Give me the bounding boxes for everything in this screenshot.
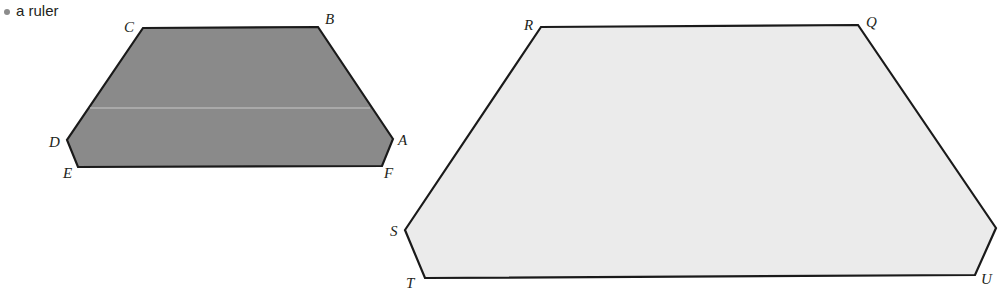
vertex-label-q: Q <box>866 14 877 30</box>
vertex-label-s: S <box>390 223 398 239</box>
vertex-label-r: R <box>523 17 533 33</box>
vertex-label-f: F <box>383 165 394 181</box>
vertex-label-e: E <box>62 165 72 181</box>
large-hexagon <box>405 25 996 278</box>
vertex-label-u: U <box>981 271 993 287</box>
vertex-label-b: B <box>325 11 334 27</box>
vertex-label-d: D <box>48 134 60 150</box>
hexagon-diagram: ABCDEFQRSTU <box>0 0 1000 293</box>
vertex-label-t: T <box>406 275 416 291</box>
small-hexagon <box>67 27 393 167</box>
vertex-label-a: A <box>397 132 408 148</box>
vertex-label-c: C <box>124 19 135 35</box>
